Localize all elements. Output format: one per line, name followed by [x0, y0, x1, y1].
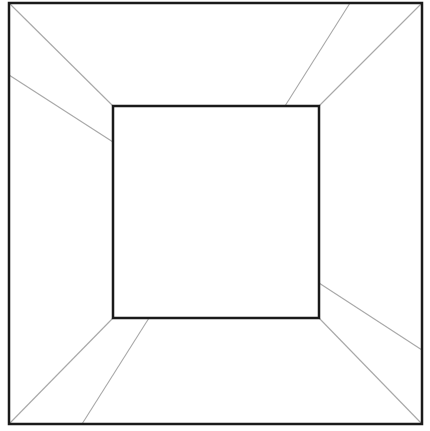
top-left-corner-line — [9, 3, 113, 106]
bottom-left-corner-line — [9, 318, 113, 424]
top-right-corner-line — [319, 3, 422, 106]
bottom-panel-line — [82, 318, 149, 424]
frame-perspective-diagram — [0, 0, 430, 431]
guide-lines — [9, 3, 422, 424]
top-panel-line — [285, 3, 350, 106]
left-panel-line — [9, 75, 113, 142]
bottom-right-corner-line — [319, 318, 422, 424]
right-panel-line — [319, 283, 422, 350]
inner-square — [113, 106, 319, 318]
diagram-canvas — [0, 0, 430, 431]
